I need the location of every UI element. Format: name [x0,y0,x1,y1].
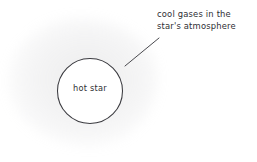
diagram-canvas: hot star cool gases in the star's atmosp… [0,0,257,162]
annotation-text-line-2: star's atmosphere [157,21,236,33]
hot-star-label: hot star [57,83,123,93]
annotation-text-line-1: cool gases in the [157,9,236,21]
annotation-text: cool gases in the star's atmosphere [157,9,236,32]
annotation-leader-line [125,38,159,66]
